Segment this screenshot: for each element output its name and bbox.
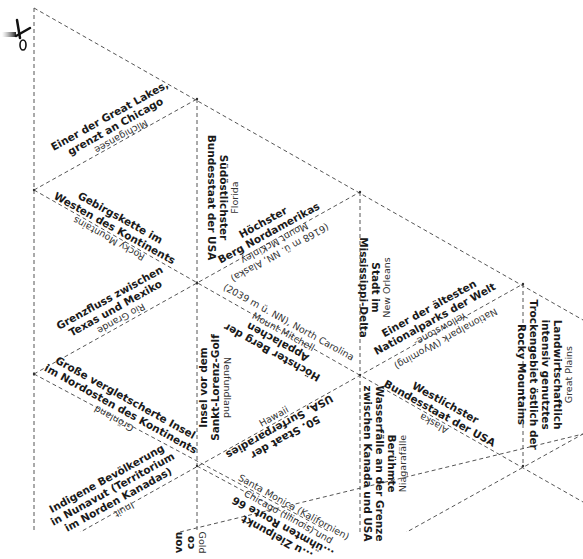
clue-text: Insel vor demSankt-Lorenz-Golf (197, 313, 221, 463)
scissors-icon (2, 18, 32, 52)
clue-text: Landwirtschaftlichintensiv genutztesTroc… (515, 290, 563, 460)
clue-text: BerühmteWasserfälle an der Grenzezwische… (361, 379, 397, 549)
answer-text: Niagarafälle (398, 379, 409, 549)
clue-text: vonco (172, 503, 196, 559)
tile-greatplains: Great Plains Landwirtschaftlichintensiv … (515, 290, 574, 460)
tile-niagara: Niagarafälle BerühmteWasserfälle an der … (361, 379, 408, 549)
tile-partial: vonco Gold (172, 503, 207, 559)
answer-text: Great Plains (564, 290, 575, 460)
answer-text: Gold (197, 503, 208, 559)
